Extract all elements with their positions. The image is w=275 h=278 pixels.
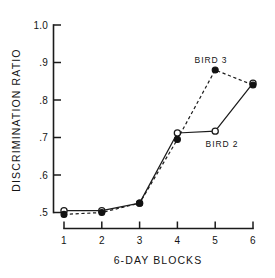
data-point — [212, 67, 218, 73]
data-point — [137, 200, 143, 206]
y-tick-label-0.9: .9 — [39, 57, 48, 68]
y-tick-label-0.5: .5 — [39, 207, 48, 218]
x-tick-label-6: 6 — [250, 235, 256, 246]
x-tick-label-5: 5 — [212, 235, 218, 246]
x-tick-label-2: 2 — [99, 235, 105, 246]
data-point — [174, 130, 180, 136]
x-tick-label-4: 4 — [175, 235, 181, 246]
x-axis-title: 6-DAY BLOCKS — [114, 254, 203, 266]
data-point — [212, 128, 218, 134]
chart-canvas: 1.0 .9 .8 .7 .6 .5 DISCRIMINATION RATIO … — [0, 0, 275, 278]
y-tick-label-1.0: 1.0 — [33, 20, 48, 31]
y-tick-label-0.7: .7 — [39, 132, 48, 143]
data-point — [174, 136, 180, 142]
x-tick-label-3: 3 — [137, 235, 143, 246]
annotation-bird-2: BIRD 2 — [206, 139, 239, 149]
annotation-bird-3: BIRD 3 — [195, 55, 228, 65]
data-point — [99, 210, 105, 216]
data-point — [61, 211, 67, 217]
discrimination-ratio-line-chart: 1.0 .9 .8 .7 .6 .5 DISCRIMINATION RATIO … — [0, 0, 275, 278]
data-point — [250, 82, 256, 88]
y-tick-label-0.6: .6 — [39, 170, 48, 181]
y-axis-title: DISCRIMINATION RATIO — [10, 48, 22, 191]
y-tick-label-0.8: .8 — [39, 95, 48, 106]
x-tick-label-1: 1 — [61, 235, 67, 246]
